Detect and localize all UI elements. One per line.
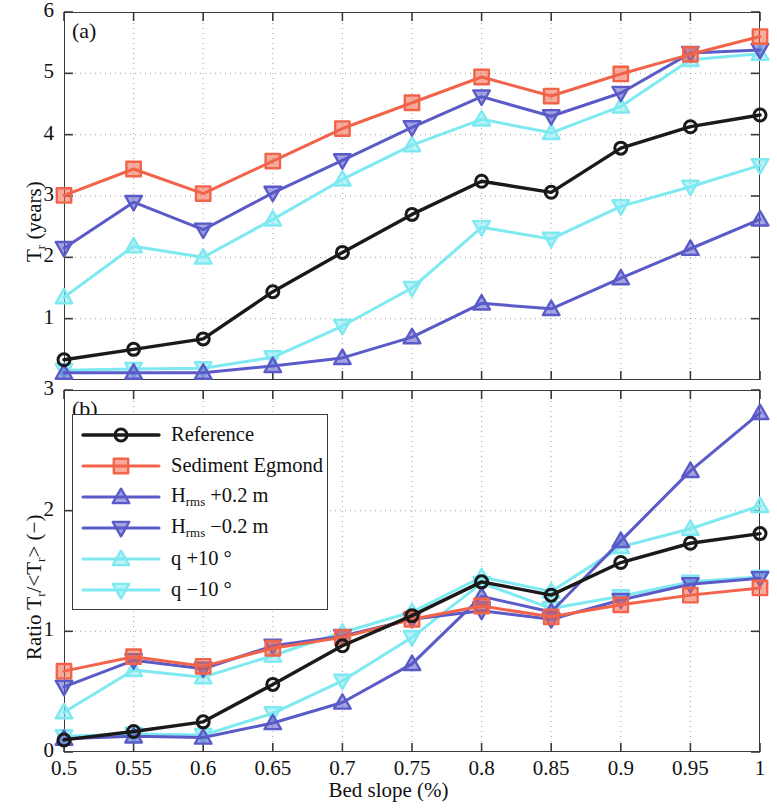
legend-label-subscript: rms <box>186 493 205 508</box>
legend-item[interactable]: Hrms +0.2 m <box>79 481 319 512</box>
x-tick-label: 0.75 <box>372 758 452 779</box>
y-axis-title-t: T <box>22 249 46 262</box>
legend-label-suffix: −0.2 m <box>205 515 268 537</box>
legend-marker-circle-icon <box>79 422 163 448</box>
legend: ReferenceSediment EgmondHrms +0.2 mHrms … <box>72 414 328 610</box>
x-tick-label: 0.55 <box>94 758 174 779</box>
y-tick-label: 5 <box>8 61 54 82</box>
legend-marker-triangle-up-icon <box>79 484 163 510</box>
legend-label-suffix: +0.2 m <box>205 484 268 506</box>
legend-marker-triangle-up-icon <box>79 546 163 572</box>
y-axis-title-post: > (−) <box>22 515 46 558</box>
y-axis-title-sub: r <box>33 245 48 249</box>
legend-item[interactable]: Hrms −0.2 m <box>79 512 319 543</box>
panel-a-plot-area <box>64 12 760 380</box>
figure-root: (a) 123456 Tr (years) (b) 0123 Ratio Tr/… <box>0 0 777 810</box>
panel-b-y-axis-title: Ratio Tr/<Tr> (−) <box>22 515 49 660</box>
legend-label: q −10 ° <box>171 578 232 601</box>
y-tick-label: 3 <box>8 378 54 399</box>
legend-label: Hrms +0.2 m <box>171 484 269 510</box>
x-tick-label: 0.85 <box>511 758 591 779</box>
panel-a-y-axis-title: Tr (years) <box>22 181 49 262</box>
x-tick-label: 0.5 <box>24 758 104 779</box>
x-tick-label: 0.8 <box>442 758 522 779</box>
y-axis-title-ratio: Ratio T <box>22 597 46 660</box>
legend-marker-triangle-down-icon <box>79 515 163 541</box>
legend-label: Hrms −0.2 m <box>171 515 269 541</box>
panel-a-tag: (a) <box>72 18 96 44</box>
y-axis-title-sub1: r <box>33 592 48 596</box>
x-tick-label: 0.95 <box>650 758 730 779</box>
y-tick-label: 4 <box>8 123 54 144</box>
legend-label-subscript: rms <box>186 524 205 539</box>
legend-marker-triangle-down-icon <box>79 577 163 603</box>
legend-item[interactable]: Reference <box>79 419 319 450</box>
legend-label: Reference <box>171 423 254 446</box>
legend-label-base: H <box>171 484 186 506</box>
x-tick-label: 0.6 <box>163 758 243 779</box>
x-tick-label: 0.7 <box>302 758 382 779</box>
legend-label: Sediment Egmond <box>171 454 323 477</box>
legend-label: q +10 ° <box>171 547 232 570</box>
x-tick-label: 1 <box>720 758 777 779</box>
legend-item[interactable]: q −10 ° <box>79 574 319 605</box>
legend-item[interactable]: q +10 ° <box>79 543 319 574</box>
legend-item[interactable]: Sediment Egmond <box>79 450 319 481</box>
y-axis-title-units: (years) <box>22 181 46 245</box>
x-tick-label: 0.9 <box>581 758 661 779</box>
y-axis-title-sub2: r <box>33 557 48 561</box>
legend-marker-square-icon <box>79 453 163 479</box>
legend-label-base: H <box>171 515 186 537</box>
x-axis-title: Bed slope (%) <box>0 778 777 803</box>
y-axis-title-mid: /<T <box>22 562 46 593</box>
y-tick-label: 6 <box>8 0 54 21</box>
y-tick-label: 1 <box>8 307 54 328</box>
x-tick-label: 0.65 <box>233 758 313 779</box>
